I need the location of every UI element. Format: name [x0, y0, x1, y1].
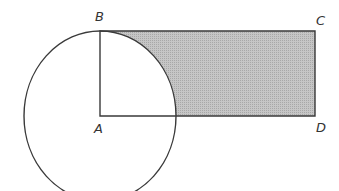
label-a: A [94, 121, 103, 136]
label-d: D [316, 120, 326, 135]
label-b: B [95, 9, 104, 24]
label-c: C [316, 13, 325, 28]
geometry-figure [0, 0, 339, 191]
shaded-region [100, 31, 315, 116]
